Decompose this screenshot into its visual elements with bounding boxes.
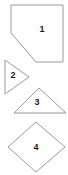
- shape-label-4: 4: [33, 142, 38, 152]
- shape-triangle-right: [5, 60, 29, 94]
- geometric-shapes-figure: 1 2 3 4: [0, 0, 68, 175]
- shape-triangle-up: [14, 88, 66, 113]
- shape-label-2: 2: [10, 70, 15, 80]
- shape-label-3: 3: [34, 97, 39, 107]
- shapes-canvas: 1 2 3 4: [0, 0, 68, 175]
- shape-pentagon-cut-corner: [11, 5, 63, 62]
- shape-label-1: 1: [39, 24, 44, 34]
